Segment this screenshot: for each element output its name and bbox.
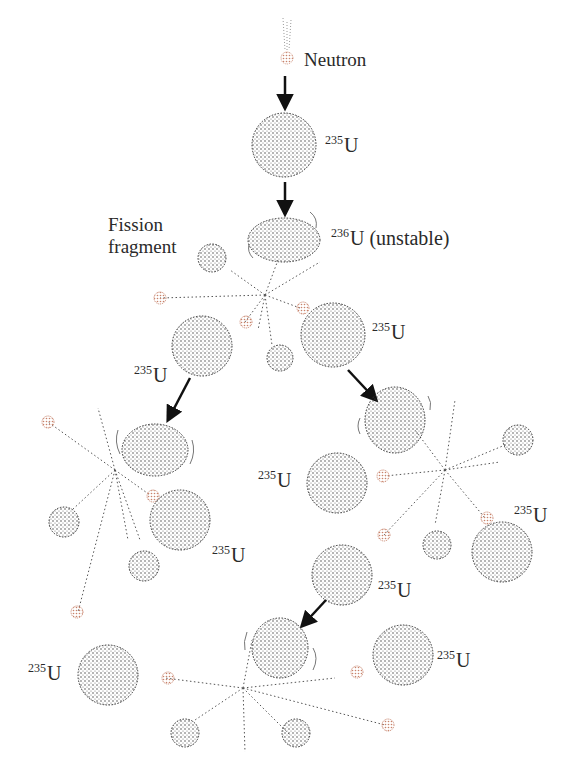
gen3-u235-bottom-right-nucleus	[373, 625, 433, 685]
fission-fragment-label: Fissionfragment	[108, 214, 177, 258]
mass-number: 235	[134, 363, 152, 377]
gen3-u235-right-a-nucleus	[307, 453, 367, 513]
element-symbol: U	[397, 579, 411, 601]
fission-chain-diagram	[0, 0, 579, 780]
mass-number: 235	[258, 468, 276, 482]
fission-fragment-nucleus	[49, 507, 79, 537]
element-symbol: U	[153, 364, 167, 386]
u235-target-nucleus	[252, 113, 316, 177]
mass-number: 235	[325, 133, 343, 147]
gen3-u235-right-b-label: 235U	[514, 505, 547, 525]
element-symbol: U	[344, 134, 358, 156]
element-symbol: U	[391, 321, 405, 343]
bottom-u236-nucleus	[244, 618, 316, 678]
mass-number: 236	[331, 226, 349, 240]
label-line: fragment	[108, 236, 177, 257]
mass-number: 235	[372, 320, 390, 334]
neutron	[147, 490, 159, 502]
gen3-u235-right-a-label: 235U	[258, 470, 291, 490]
fission-fragment-nucleus	[267, 345, 293, 371]
neutron	[42, 416, 54, 428]
gen3-u235-bottom-left-nucleus	[78, 645, 138, 705]
neutron-label: Neutron	[304, 50, 366, 69]
mass-number: 235	[212, 543, 230, 557]
neutron	[382, 719, 394, 731]
arrow-left-branch	[168, 378, 190, 420]
gen3-u235-bottom-left-label: 235U	[28, 663, 61, 683]
element-symbol: U	[277, 469, 291, 491]
element-symbol: U	[231, 544, 245, 566]
gen3-u235-bottom-right-label: 235U	[437, 650, 470, 670]
neutron	[162, 672, 174, 684]
gen2-u235-left-nucleus	[172, 316, 232, 376]
fission-fragment-nucleus	[129, 551, 159, 581]
neutron	[240, 316, 252, 328]
neutron	[154, 292, 166, 304]
gen3-u235-middle-nucleus	[312, 545, 372, 605]
fission-fragment-nucleus	[423, 531, 451, 559]
fission-fragment-nucleus	[503, 425, 533, 455]
element-symbol: U	[533, 504, 547, 526]
right-u236-nucleus	[358, 387, 431, 453]
mass-number: 235	[378, 578, 396, 592]
neutron	[481, 512, 493, 524]
fission-fragment-nucleus	[198, 244, 226, 272]
gen2-u235-left-label: 235U	[134, 365, 167, 385]
u236-label: 236U (unstable)	[331, 228, 449, 248]
u235-target-label: 235U	[325, 135, 358, 155]
gen2-u235-right-nucleus	[301, 303, 365, 367]
neutron	[71, 606, 83, 618]
element-symbol: U	[47, 662, 61, 684]
stability-note: (unstable)	[364, 227, 449, 249]
element-symbol: U	[456, 649, 470, 671]
gen3-u235-right-b-nucleus	[472, 522, 532, 582]
gen3-u235-left-b-label: 235U	[212, 545, 245, 565]
mass-number: 235	[514, 503, 532, 517]
left-u236-nucleus	[116, 424, 193, 476]
fission-fragment-nucleus	[282, 719, 310, 747]
label-line: Fission	[108, 214, 163, 235]
incoming-neutron	[281, 18, 293, 64]
gen3-u235-left-b-nucleus	[150, 490, 210, 550]
mass-number: 235	[28, 661, 46, 675]
gen3-u235-middle-label: 235U	[378, 580, 411, 600]
neutron	[377, 470, 389, 482]
element-symbol: U	[350, 227, 364, 249]
arrow-right-branch	[348, 370, 376, 400]
neutron	[297, 302, 309, 314]
arrow-bottom-branch	[302, 600, 326, 626]
gen2-u235-right-label: 235U	[372, 322, 405, 342]
neutron	[351, 666, 363, 678]
mass-number: 235	[437, 648, 455, 662]
fission-fragment-nucleus	[171, 719, 199, 747]
u236-unstable-nucleus	[248, 212, 320, 262]
neutron	[378, 529, 390, 541]
